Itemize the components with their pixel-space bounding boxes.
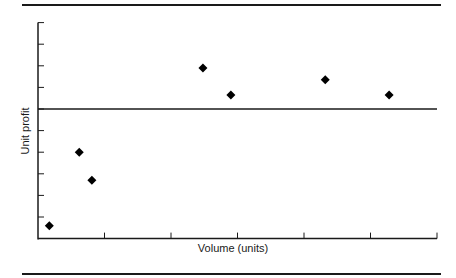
diamond-marker	[321, 75, 330, 84]
diamond-marker	[226, 90, 235, 99]
diamond-marker	[75, 148, 84, 157]
diamond-marker	[87, 176, 96, 185]
axes	[38, 23, 437, 240]
data-points	[45, 63, 394, 230]
diamond-marker	[385, 90, 394, 99]
x-axis-label: Volume (units)	[198, 242, 268, 254]
y-axis-label: Unit profit	[19, 107, 31, 154]
scatter-chart: Volume (units) Unit profit	[0, 0, 456, 278]
diamond-marker	[198, 63, 207, 72]
diamond-marker	[45, 221, 54, 230]
